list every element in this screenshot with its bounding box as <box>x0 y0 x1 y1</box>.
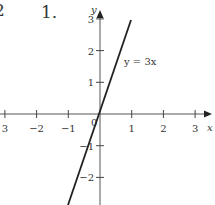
y-axis-arrow-icon <box>97 10 104 18</box>
x-tick-label: 1 <box>129 123 135 134</box>
y-axis-label: y <box>90 4 97 15</box>
x-axis-arrow-icon <box>204 111 212 118</box>
x-axis <box>0 111 212 118</box>
x-tick-label: −1 <box>61 123 76 134</box>
y-tick-label: −2 <box>79 172 94 183</box>
x-axis-label: x <box>207 122 213 133</box>
y-tick-label: 2 <box>88 46 94 57</box>
y-axis <box>97 10 104 205</box>
y-tick-label: 3 <box>88 14 94 25</box>
y-tick-label: 1 <box>88 77 94 88</box>
x-tick-label: −2 <box>29 123 44 134</box>
x-tick-label: 2 <box>160 123 166 134</box>
x-tick-label: 3 <box>192 123 198 134</box>
x-tick-label: 3 <box>2 123 8 134</box>
line-equation-label: y = 3x <box>123 56 157 67</box>
coordinate-plot: 3−2−1123 −2−1123 x y 0 y = 3x <box>0 0 215 205</box>
